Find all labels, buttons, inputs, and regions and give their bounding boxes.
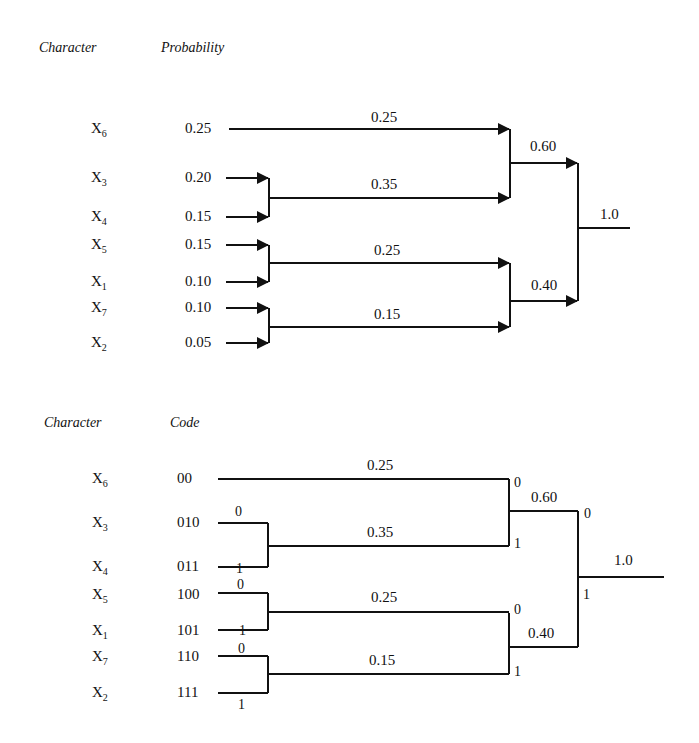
- bottom-row-code: 110: [177, 649, 199, 664]
- bit-label: 0: [238, 642, 245, 656]
- bottom-row-code: 101: [177, 623, 200, 638]
- bottom-row-code: 111: [177, 685, 198, 700]
- top-root-label: 1.0: [600, 207, 619, 222]
- bottom-row-char: X3: [92, 515, 108, 530]
- bottom-row-char: X6: [92, 471, 108, 486]
- top-row-char: X1: [91, 274, 107, 289]
- bottom-row-char: X2: [92, 685, 108, 700]
- bottom-root-label: 1.0: [614, 553, 633, 568]
- bit-label: 1: [583, 588, 590, 602]
- top-row-char: X5: [91, 237, 107, 252]
- bottom-tree: [218, 479, 664, 693]
- bit-label: 1: [238, 698, 245, 712]
- top-node-label: 0.35: [371, 177, 397, 192]
- bottom-header-code: Code: [170, 416, 200, 430]
- bit-label: 1: [236, 562, 243, 576]
- bottom-node-label: 0.15: [369, 653, 395, 668]
- top-row-prob: 0.20: [185, 170, 211, 185]
- top-row-char: X4: [91, 209, 107, 224]
- top-row-prob: 0.15: [185, 237, 211, 252]
- top-node-label: 0.25: [371, 110, 397, 125]
- bottom-row-code: 100: [177, 587, 200, 602]
- top-row-prob: 0.10: [185, 300, 211, 315]
- bottom-node-label: 0.60: [531, 490, 557, 505]
- bottom-row-code: 011: [177, 559, 199, 574]
- top-node-label: 0.60: [530, 139, 556, 154]
- top-tree: [226, 129, 630, 343]
- bit-label: 0: [235, 505, 242, 519]
- bit-label: 0: [584, 507, 591, 521]
- bottom-row-code: 010: [177, 515, 200, 530]
- top-node-label: 0.40: [531, 278, 557, 293]
- bottom-row-char: X7: [92, 649, 108, 664]
- top-row-prob: 0.25: [185, 121, 211, 136]
- bit-label: 1: [514, 537, 521, 551]
- top-row-char: X2: [91, 335, 107, 350]
- bottom-row-char: X4: [92, 559, 108, 574]
- bit-label: 0: [237, 578, 244, 592]
- top-row-prob: 0.10: [185, 274, 211, 289]
- top-node-label: 0.15: [374, 307, 400, 322]
- bit-label: 0: [514, 476, 521, 490]
- bottom-header-character: Character: [44, 416, 102, 430]
- top-header-character: Character: [39, 41, 97, 55]
- bottom-node-label: 0.35: [367, 525, 393, 540]
- bit-label: 0: [514, 603, 521, 617]
- bottom-row-char: X1: [92, 623, 108, 638]
- bottom-row-char: X5: [92, 587, 108, 602]
- bit-label: 1: [514, 665, 521, 679]
- bottom-row-code: 00: [177, 471, 192, 486]
- top-header-probability: Probability: [161, 41, 224, 55]
- top-node-label: 0.25: [374, 243, 400, 258]
- bottom-node-label: 0.40: [528, 626, 554, 641]
- top-row-char: X3: [91, 170, 107, 185]
- top-row-prob: 0.05: [185, 335, 211, 350]
- top-row-char: X6: [91, 121, 107, 136]
- bottom-node-label: 0.25: [367, 458, 393, 473]
- bit-label: 1: [239, 624, 246, 638]
- top-row-prob: 0.15: [185, 209, 211, 224]
- top-row-char: X7: [91, 300, 107, 315]
- bottom-node-label: 0.25: [371, 590, 397, 605]
